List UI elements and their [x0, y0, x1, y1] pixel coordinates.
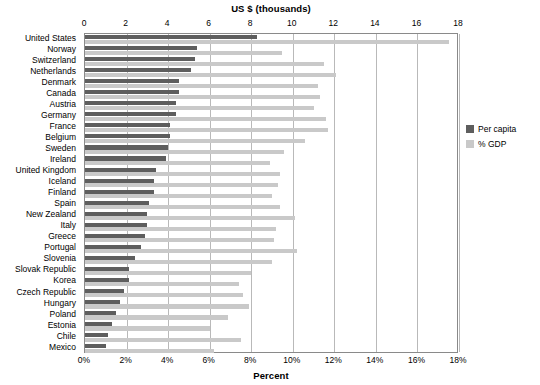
bar-per-capita: [85, 134, 170, 138]
bar-row: [85, 122, 457, 133]
top-tick-label: 6: [206, 18, 211, 28]
bar-row: [85, 233, 457, 244]
bar-row: [85, 299, 457, 310]
top-tick-label: 14: [370, 18, 379, 28]
bar-percent-gdp: [85, 216, 295, 220]
bar-percent-gdp: [85, 282, 239, 286]
bar-per-capita: [85, 101, 176, 105]
top-tick-label: 2: [123, 18, 128, 28]
bottom-tick-label: 0%: [78, 355, 90, 365]
chart-legend: Per capita% GDP: [466, 124, 516, 154]
category-label: Finland: [48, 187, 76, 199]
bar-per-capita: [85, 245, 141, 249]
bar-percent-gdp: [85, 271, 251, 275]
category-label: Korea: [53, 275, 76, 287]
category-label: Austria: [50, 99, 76, 111]
bottom-tick-label: 10%: [283, 355, 300, 365]
legend-label: Per capita: [478, 124, 516, 134]
bar-percent-gdp: [85, 73, 336, 77]
bar-percent-gdp: [85, 293, 243, 297]
bar-per-capita: [85, 201, 149, 205]
bar-percent-gdp: [85, 161, 270, 165]
bar-series-container: [85, 34, 457, 352]
bar-per-capita: [85, 35, 257, 39]
bar-per-capita: [85, 190, 154, 194]
top-tick-label: 10: [287, 18, 296, 28]
legend-label: % GDP: [478, 139, 506, 149]
top-tick-label: 12: [329, 18, 338, 28]
category-label: Chile: [57, 331, 76, 343]
category-label: Norway: [47, 44, 76, 56]
bottom-tick-label: 16%: [408, 355, 425, 365]
category-label: New Zealand: [26, 209, 76, 221]
bar-row: [85, 34, 457, 45]
bar-row: [85, 244, 457, 255]
category-label: Mexico: [49, 342, 76, 354]
category-label: Czech Republic: [16, 287, 76, 299]
bar-percent-gdp: [85, 326, 210, 330]
bar-per-capita: [85, 311, 116, 315]
bar-percent-gdp: [85, 62, 324, 66]
bar-per-capita: [85, 90, 179, 94]
bar-percent-gdp: [85, 227, 276, 231]
bar-per-capita: [85, 333, 108, 337]
bottom-tick-label: 8%: [244, 355, 256, 365]
category-label: Ireland: [50, 154, 76, 166]
plot-area: [84, 33, 458, 353]
bar-row: [85, 211, 457, 222]
category-label: Slovenia: [43, 253, 76, 265]
bar-per-capita: [85, 212, 147, 216]
bar-percent-gdp: [85, 51, 282, 55]
bar-row: [85, 255, 457, 266]
bar-row: [85, 222, 457, 233]
legend-item: Per capita: [466, 124, 516, 134]
category-axis-labels: United StatesNorwaySwitzerlandNetherland…: [0, 33, 80, 353]
category-label: Germany: [41, 110, 76, 122]
bar-per-capita: [85, 322, 112, 326]
top-tick-label: 8: [248, 18, 253, 28]
bar-per-capita: [85, 267, 129, 271]
category-label: Denmark: [42, 77, 76, 89]
bar-row: [85, 277, 457, 288]
bar-per-capita: [85, 223, 147, 227]
bar-row: [85, 188, 457, 199]
legend-swatch-icon: [466, 140, 474, 148]
category-label: Italy: [60, 220, 76, 232]
bar-percent-gdp: [85, 260, 272, 264]
bar-per-capita: [85, 256, 135, 260]
bar-row: [85, 144, 457, 155]
category-label: Sweden: [45, 143, 76, 155]
category-label: Canada: [46, 88, 76, 100]
bar-row: [85, 100, 457, 111]
bar-per-capita: [85, 156, 166, 160]
category-label: Belgium: [45, 132, 76, 144]
top-tick-label: 0: [82, 18, 87, 28]
bar-percent-gdp: [85, 40, 449, 44]
category-label: Netherlands: [30, 66, 76, 78]
bar-row: [85, 332, 457, 343]
bar-percent-gdp: [85, 349, 214, 353]
health-spending-bar-chart: US $ (thousands) 024681012141618 United …: [0, 0, 540, 385]
bar-percent-gdp: [85, 194, 272, 198]
bar-row: [85, 45, 457, 56]
bar-percent-gdp: [85, 128, 328, 132]
bar-percent-gdp: [85, 117, 326, 121]
bar-percent-gdp: [85, 304, 249, 308]
bar-percent-gdp: [85, 150, 284, 154]
top-tick-label: 18: [453, 18, 462, 28]
bar-per-capita: [85, 344, 106, 348]
bar-row: [85, 67, 457, 78]
category-label: Estonia: [48, 320, 76, 332]
bottom-tick-label: 14%: [366, 355, 383, 365]
bar-row: [85, 310, 457, 321]
category-label: United States: [25, 33, 76, 45]
bottom-tick-label: 2%: [119, 355, 131, 365]
bar-percent-gdp: [85, 139, 305, 143]
category-label: Spain: [54, 198, 76, 210]
bar-per-capita: [85, 123, 170, 127]
category-label: Iceland: [49, 176, 76, 188]
bar-per-capita: [85, 57, 195, 61]
bar-row: [85, 133, 457, 144]
bottom-axis-tick-labels: 0%2%4%6%8%10%12%14%16%18%: [0, 355, 540, 367]
bottom-tick-label: 18%: [449, 355, 466, 365]
